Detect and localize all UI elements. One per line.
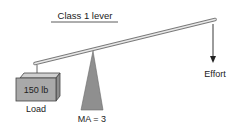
load-box: 150 lb bbox=[16, 73, 60, 101]
effort-label: Effort bbox=[204, 69, 226, 79]
effort-arrow-icon bbox=[210, 24, 216, 63]
lever-diagram: Class 1 lever 150 lb Load Effort MA = 3 bbox=[0, 0, 241, 133]
diagram-title: Class 1 lever bbox=[58, 10, 113, 21]
load-weight-label: 150 lb bbox=[24, 85, 49, 95]
mechanical-advantage-label: MA = 3 bbox=[78, 114, 106, 124]
load-label: Load bbox=[26, 104, 46, 114]
fulcrum-triangle bbox=[81, 51, 103, 110]
lever-bar bbox=[35, 20, 215, 64]
